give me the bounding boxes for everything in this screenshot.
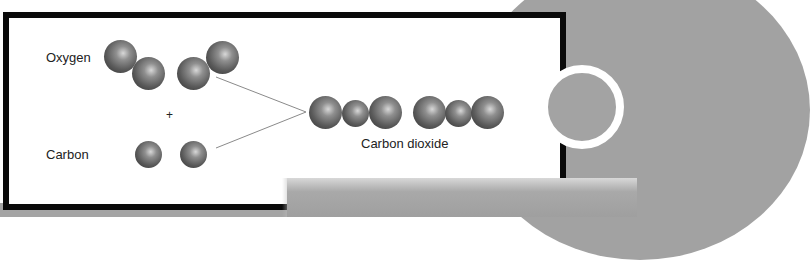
carbon-atom-icon <box>135 141 162 168</box>
oxygen-atom-icon <box>132 57 165 90</box>
label-carbon: Carbon <box>46 147 89 162</box>
oxygen-atom-icon <box>177 57 210 90</box>
oxygen-atom-icon <box>471 96 504 129</box>
oxygen-atom-icon <box>369 96 402 129</box>
carbon-atom-icon <box>180 141 207 168</box>
carbon-atom-icon <box>342 100 369 127</box>
plus-sign: + <box>166 108 173 122</box>
oxygen-atom-icon <box>413 96 446 129</box>
label-oxygen: Oxygen <box>46 50 91 65</box>
carbon-atom-icon <box>445 100 472 127</box>
label-carbon-dioxide: Carbon dioxide <box>361 136 448 151</box>
ring-circle-icon <box>540 65 624 149</box>
oxygen-atom-icon <box>206 41 239 74</box>
bottom-fade-strip <box>287 178 637 217</box>
oxygen-atom-icon <box>309 96 342 129</box>
